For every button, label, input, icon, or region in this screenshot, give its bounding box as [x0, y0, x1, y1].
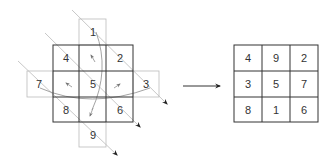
magic-square-diagram: 1 4 2 7 5 3 8 6 9 4 9 2 3 5 7 8 1 6	[0, 0, 332, 167]
cell-2: 2	[117, 52, 123, 64]
magic-cell: 4	[245, 52, 251, 64]
right-numbers: 4 9 2 3 5 7 8 1 6	[245, 52, 307, 116]
magic-cell: 6	[301, 104, 307, 116]
cell-8: 8	[63, 104, 69, 116]
cell-5: 5	[90, 78, 96, 90]
magic-cell: 9	[273, 52, 279, 64]
cell-3: 3	[143, 78, 149, 90]
magic-cell: 3	[245, 78, 251, 90]
magic-cell: 8	[245, 104, 251, 116]
magic-cell: 1	[273, 104, 279, 116]
cell-7: 7	[36, 78, 42, 90]
cell-1: 1	[90, 26, 96, 38]
cell-9: 9	[90, 129, 96, 141]
magic-cell: 7	[301, 78, 307, 90]
magic-cell: 2	[301, 52, 307, 64]
magic-cell: 5	[273, 78, 279, 90]
cell-6: 6	[117, 104, 123, 116]
cell-4: 4	[63, 52, 69, 64]
